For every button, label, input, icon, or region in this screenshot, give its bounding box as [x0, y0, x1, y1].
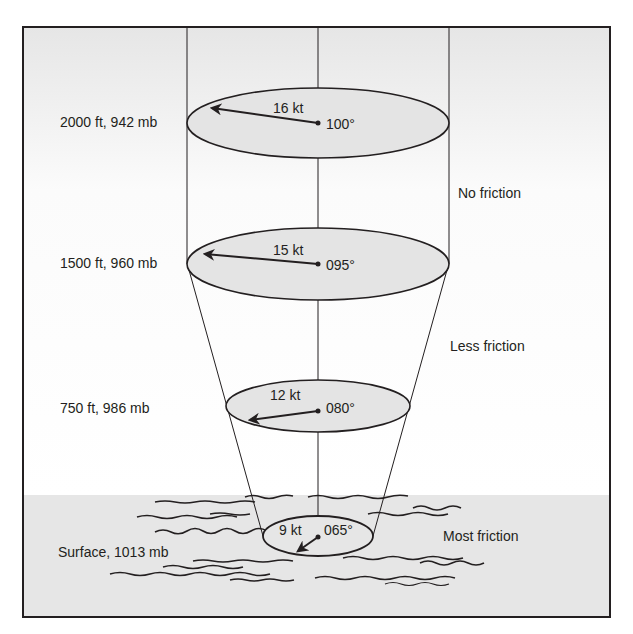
zone-label-most-friction: Most friction — [443, 528, 518, 544]
friction-wind-diagram: 16 kt 100° 2000 ft, 942 mb 15 kt 095° 15… — [0, 0, 633, 634]
center-dot — [316, 121, 321, 126]
wind-speed-label: 16 kt — [273, 100, 303, 116]
wind-direction-label: 080° — [326, 400, 355, 416]
wind-direction-label: 095° — [326, 257, 355, 273]
level-label: 750 ft, 986 mb — [60, 400, 150, 416]
center-dot — [316, 409, 321, 414]
level-label: 2000 ft, 942 mb — [60, 114, 158, 130]
zone-label-no-friction: No friction — [458, 185, 521, 201]
center-dot — [316, 535, 321, 540]
zone-label-less-friction: Less friction — [450, 338, 525, 354]
wind-direction-label: 065° — [324, 522, 353, 538]
wind-disc — [226, 380, 410, 432]
level-label: 1500 ft, 960 mb — [60, 255, 158, 271]
center-dot — [316, 262, 321, 267]
wind-speed-label: 9 kt — [279, 522, 302, 538]
level-label: Surface, 1013 mb — [58, 544, 169, 560]
wind-speed-label: 15 kt — [273, 242, 303, 258]
wind-speed-label: 12 kt — [270, 387, 300, 403]
wind-direction-label: 100° — [326, 116, 355, 132]
